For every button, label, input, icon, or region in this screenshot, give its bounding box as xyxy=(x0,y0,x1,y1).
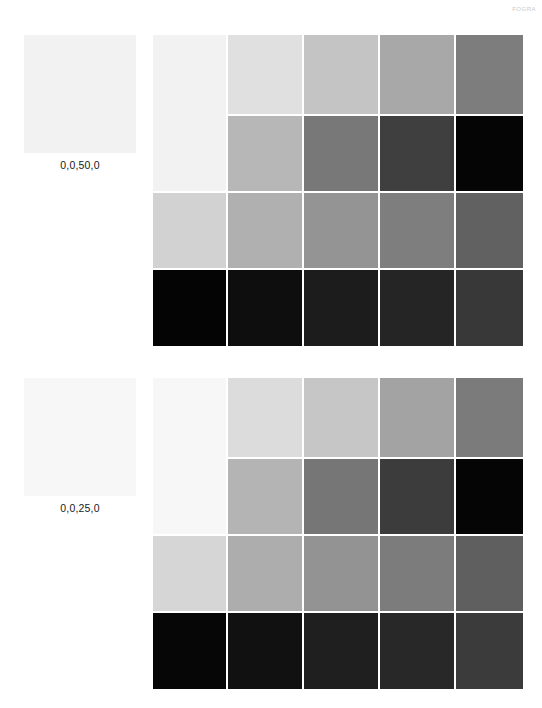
color-swatch xyxy=(304,459,378,534)
color-swatch xyxy=(380,270,454,346)
color-swatch xyxy=(228,270,302,346)
color-swatch xyxy=(304,536,378,611)
color-swatch xyxy=(456,193,523,268)
color-swatch xyxy=(153,613,226,689)
reference-swatch-2 xyxy=(24,378,136,496)
color-swatch xyxy=(456,378,523,457)
color-swatch xyxy=(304,35,378,114)
color-swatch xyxy=(380,536,454,611)
color-swatch xyxy=(153,378,226,534)
color-swatch xyxy=(380,459,454,534)
color-swatch xyxy=(380,378,454,457)
color-swatch xyxy=(228,378,302,457)
color-swatch xyxy=(228,613,302,689)
reference-swatch-1 xyxy=(24,35,136,153)
color-swatch xyxy=(456,536,523,611)
color-swatch xyxy=(228,193,302,268)
header-code-text: FOGRA xyxy=(512,6,536,13)
color-swatch xyxy=(380,193,454,268)
swatch-grid-1 xyxy=(153,35,515,346)
color-swatch xyxy=(304,378,378,457)
color-swatch xyxy=(153,193,226,268)
color-swatch xyxy=(304,193,378,268)
color-swatch xyxy=(456,270,523,346)
color-swatch xyxy=(228,35,302,114)
swatch-grid-2 xyxy=(153,378,515,689)
color-swatch xyxy=(153,536,226,611)
color-swatch xyxy=(380,613,454,689)
color-swatch xyxy=(304,116,378,191)
reference-label-2: 0,0,25,0 xyxy=(24,502,136,514)
color-swatch xyxy=(304,270,378,346)
color-swatch xyxy=(380,35,454,114)
color-swatch xyxy=(456,35,523,114)
color-swatch xyxy=(228,459,302,534)
color-swatch xyxy=(456,459,523,534)
color-swatch xyxy=(228,536,302,611)
color-swatch xyxy=(304,613,378,689)
color-swatch xyxy=(153,270,226,346)
color-swatch xyxy=(456,613,523,689)
color-swatch xyxy=(380,116,454,191)
page-header: FOGRA xyxy=(0,0,542,8)
color-swatch xyxy=(228,116,302,191)
reference-label-1: 0,0,50,0 xyxy=(24,159,136,171)
color-swatch xyxy=(456,116,523,191)
color-swatch xyxy=(153,35,226,191)
